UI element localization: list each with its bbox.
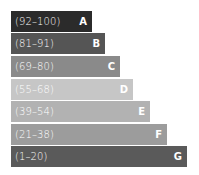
range-label: (69–80) xyxy=(15,61,54,72)
rating-letter: F xyxy=(155,129,162,140)
rating-letter: E xyxy=(138,106,145,117)
rating-bar-g: (1–20) G xyxy=(11,146,187,167)
rating-bar-d: (55–68) D xyxy=(11,79,133,100)
rating-bar-b: (81–91) B xyxy=(11,33,105,54)
rating-bar-c: (69–80) C xyxy=(11,56,120,77)
rating-bar-f: (21–38) F xyxy=(11,124,167,145)
rating-letter: C xyxy=(108,61,115,72)
rating-letter: G xyxy=(174,151,182,162)
range-label: (1–20) xyxy=(15,151,48,162)
rating-letter: D xyxy=(120,84,128,95)
range-label: (81–91) xyxy=(15,38,54,49)
rating-bar-e: (39–54) E xyxy=(11,101,150,122)
rating-letter: B xyxy=(92,38,100,49)
range-label: (92–100) xyxy=(15,16,60,27)
rating-bar-a: (92–100) A xyxy=(11,11,92,32)
range-label: (39–54) xyxy=(15,106,54,117)
range-label: (55–68) xyxy=(15,84,54,95)
rating-letter: A xyxy=(79,16,87,27)
range-label: (21–38) xyxy=(15,129,54,140)
